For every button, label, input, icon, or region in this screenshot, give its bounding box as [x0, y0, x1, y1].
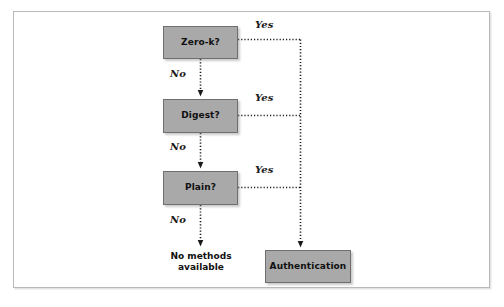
edge-label-digest-no: No: [170, 141, 186, 152]
edge-label-digest-yes: Yes: [255, 92, 273, 103]
edge-label-plain-yes: Yes: [255, 164, 273, 175]
decision-node-digest[interactable]: Digest?: [163, 99, 238, 133]
decision-node-zero-k-label: Zero-k?: [181, 38, 220, 48]
flowchart-connectors: [0, 0, 504, 307]
result-node-authentication[interactable]: Authentication: [265, 250, 351, 283]
terminal-no-methods-available: No methods available: [155, 251, 247, 274]
decision-node-digest-label: Digest?: [181, 111, 220, 121]
edge-label-plain-no: No: [170, 214, 186, 225]
decision-node-zero-k[interactable]: Zero-k?: [163, 26, 238, 59]
decision-node-plain-label: Plain?: [185, 183, 216, 193]
edge-label-zero-k-yes: Yes: [255, 19, 273, 30]
decision-node-plain[interactable]: Plain?: [163, 171, 238, 205]
edge-label-zero-k-no: No: [170, 68, 186, 79]
result-node-authentication-label: Authentication: [270, 262, 347, 272]
